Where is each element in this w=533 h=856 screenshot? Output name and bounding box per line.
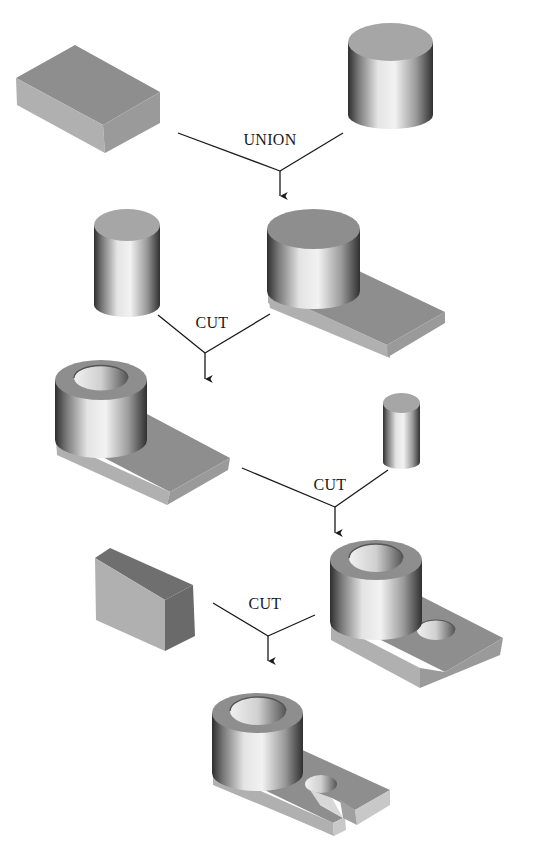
large-cylinder [348,23,433,129]
final-slotted-part [212,693,390,836]
cut-label-1: CUT [196,314,229,332]
thin-block [95,548,195,651]
cut-label-2: CUT [314,476,347,494]
bored-boss-on-plate [55,360,230,505]
cut-label-3: CUT [249,595,282,613]
boss-on-plate [267,209,445,358]
part-with-hole [330,540,503,688]
union-label: UNION [243,131,296,149]
csg-diagram: UNION CUT CUT CUT [0,0,533,856]
pin-cylinder [383,393,420,469]
rectangular-block [16,45,160,153]
small-cylinder [94,209,160,317]
